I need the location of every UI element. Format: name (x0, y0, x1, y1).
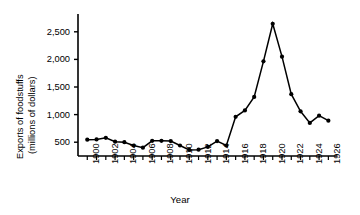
data-point (94, 137, 98, 141)
data-point (252, 95, 256, 99)
data-point (326, 119, 330, 123)
data-point (243, 108, 247, 112)
data-point (215, 139, 219, 143)
chart-container: Exports of foodstuffs (millions of dolla… (0, 0, 360, 215)
data-point (196, 148, 200, 152)
data-point (104, 136, 108, 140)
data-point (150, 139, 154, 143)
data-point (113, 140, 117, 144)
data-point (298, 109, 302, 113)
data-point (317, 114, 321, 118)
data-point (280, 55, 284, 59)
data-point (85, 138, 89, 142)
data-point (178, 143, 182, 147)
data-point (271, 22, 275, 26)
data-point (159, 139, 163, 143)
data-point (187, 148, 191, 152)
data-point (169, 139, 173, 143)
data-point (141, 146, 145, 150)
data-point (132, 143, 136, 147)
data-point (289, 92, 293, 96)
data-point (206, 145, 210, 149)
data-point (261, 59, 265, 63)
data-point (308, 121, 312, 125)
data-point (122, 140, 126, 144)
series-line (87, 24, 328, 150)
data-point (224, 143, 228, 147)
plot-area (0, 0, 360, 215)
data-point (234, 115, 238, 119)
